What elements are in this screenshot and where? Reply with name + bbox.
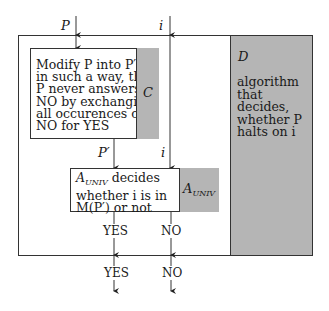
a-line1-rest: decides <box>108 170 160 185</box>
no-inner-label: NO <box>161 224 181 238</box>
box-d-tag: D <box>238 50 248 64</box>
box-c: Modify P into P′ in such a way, that P n… <box>30 48 159 139</box>
p-input-label: P <box>61 19 70 33</box>
no-outer-label: NO <box>162 266 182 280</box>
box-c-tag: C <box>143 86 153 100</box>
yes-inner-label: YES <box>103 224 128 238</box>
box-a-text: AUNIV decides whether i is in M(P′) or n… <box>76 172 167 215</box>
box-a-tag: AUNIV <box>183 182 215 201</box>
a-subscript: UNIV <box>85 178 108 187</box>
box-a-univ: AUNIV decides whether i is in M(P′) or n… <box>70 168 219 212</box>
box-d: D algorithm that decides, whether P halt… <box>230 35 313 256</box>
i-mid-label: i <box>161 146 165 160</box>
a-tag-subscript: UNIV <box>192 189 215 198</box>
p-prime-label: P′ <box>98 146 110 160</box>
box-a-line: M(P′) or not <box>76 202 167 215</box>
yes-outer-label: YES <box>104 266 129 280</box>
i-input-label: i <box>159 19 163 33</box>
a-tag-symbol: A <box>183 181 192 196</box>
box-d-line: halts on i <box>237 126 312 139</box>
box-d-text: algorithm that decides, whether P halts … <box>237 76 312 139</box>
box-c-tag-strip: C <box>136 48 159 139</box>
box-a-tag-strip: AUNIV <box>179 168 219 212</box>
box-d-line: that decides, <box>237 89 312 114</box>
box-a-line: AUNIV decides <box>76 172 167 190</box>
a-symbol: A <box>76 170 85 185</box>
